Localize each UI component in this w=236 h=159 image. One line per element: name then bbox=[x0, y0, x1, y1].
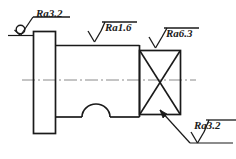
drawing-canvas: Ra3.2 Ra1.6 Ra6.3 Ra3.2 bbox=[0, 0, 236, 159]
surface-finish-label-top-middle: Ra1.6 bbox=[105, 22, 132, 33]
ra32-bottom-tick-left bbox=[191, 132, 198, 143]
ra16-tick-left bbox=[88, 31, 95, 42]
surface-finish-label-top-right: Ra6.3 bbox=[166, 28, 193, 39]
ra16-tick-right bbox=[95, 31, 102, 42]
ra63-tick-right bbox=[156, 37, 163, 48]
ra63-tick-left bbox=[149, 37, 156, 48]
flange-outline bbox=[34, 32, 56, 134]
all-around-circle-icon bbox=[16, 25, 25, 34]
surface-finish-label-bottom-right: Ra3.2 bbox=[194, 120, 221, 131]
groove-arc bbox=[82, 104, 110, 117]
ra32-bottom-tick-right bbox=[198, 132, 205, 143]
surface-finish-label-top-left: Ra3.2 bbox=[36, 8, 63, 19]
